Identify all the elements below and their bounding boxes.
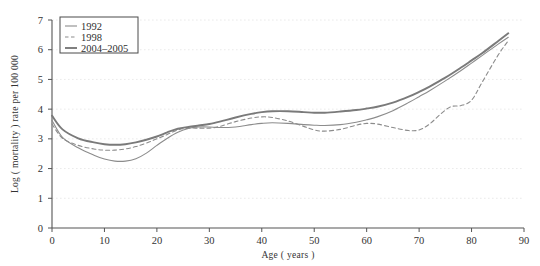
y-tick-label-4: 4 [38, 104, 44, 115]
y-axis-title: Log ( mortality ) rate per 100 000 [10, 55, 21, 193]
y-tick-label-5: 5 [38, 74, 43, 85]
legend-label-1998: 1998 [81, 32, 102, 43]
series-line-1992 [52, 37, 508, 161]
y-tick-label-6: 6 [38, 44, 43, 55]
series-line-1998 [52, 41, 508, 151]
x-tick-label-70: 70 [414, 235, 425, 246]
axis-titles-group: Age ( years )Log ( mortality ) rate per … [10, 55, 315, 261]
x-tick-label-90: 90 [519, 235, 530, 246]
y-tick-label-3: 3 [38, 133, 43, 144]
y-tick-label-1: 1 [38, 193, 43, 204]
x-tick-label-0: 0 [49, 235, 54, 246]
y-tick-label-0: 0 [38, 223, 43, 234]
x-tick-label-30: 30 [204, 235, 215, 246]
x-tick-label-20: 20 [152, 235, 163, 246]
x-axis-title: Age ( years ) [261, 250, 314, 261]
mortality-rate-line-chart: 012345670102030405060708090 Age ( years … [0, 0, 540, 266]
x-tick-label-80: 80 [466, 235, 477, 246]
legend-label-1992: 1992 [81, 21, 102, 32]
chart-canvas: 012345670102030405060708090 Age ( years … [0, 0, 540, 266]
x-tick-label-40: 40 [257, 235, 268, 246]
y-tick-label-7: 7 [38, 15, 43, 26]
chart-legend: 199219982004–2005 [60, 17, 138, 54]
x-tick-label-50: 50 [309, 235, 320, 246]
legend-label-2004-2005: 2004–2005 [81, 43, 128, 54]
x-tick-label-60: 60 [361, 235, 372, 246]
x-tick-label-10: 10 [99, 235, 110, 246]
y-tick-label-2: 2 [38, 163, 43, 174]
